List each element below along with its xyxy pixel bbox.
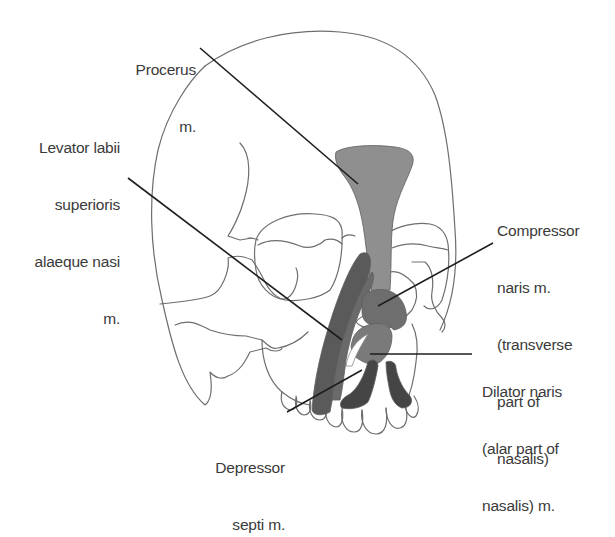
label-procerus: Procerus m. bbox=[120, 22, 196, 155]
leader-procerus bbox=[200, 48, 358, 184]
orbit-left-inner bbox=[258, 239, 342, 247]
depressor-septi-left bbox=[340, 360, 378, 409]
orbit-right-inner bbox=[392, 244, 448, 250]
label-procerus-line-1: Procerus bbox=[120, 60, 196, 79]
leader-compressor bbox=[378, 243, 493, 306]
label-levator-labii: Levator labii superioris alaeque nasi m. bbox=[10, 100, 120, 347]
label-procerus-line-2: m. bbox=[120, 117, 196, 136]
label-dilator-line-2: (alar part of bbox=[482, 439, 602, 458]
label-levator-line-1: Levator labii bbox=[10, 138, 120, 157]
leader-levator bbox=[128, 178, 342, 340]
cheek-lower bbox=[175, 322, 308, 348]
label-levator-line-4: m. bbox=[10, 309, 120, 328]
label-dilator-line-3: nasalis) m. bbox=[482, 496, 602, 515]
skull-outline bbox=[152, 31, 456, 434]
label-depressor-line-1: Depressor bbox=[195, 458, 285, 477]
label-depressor-septi: Depressor septi m. bbox=[195, 420, 285, 537]
label-compressor-line-1: Compressor bbox=[497, 221, 612, 240]
label-compressor-line-2: naris m. bbox=[497, 278, 612, 297]
label-levator-line-3: alaeque nasi bbox=[10, 252, 120, 271]
zygomatic-outline bbox=[160, 256, 298, 304]
label-dilator-naris: Dilator naris (alar part of nasalis) m. bbox=[482, 344, 602, 534]
depressor-septi-right bbox=[386, 361, 412, 408]
orbit-left-rim bbox=[248, 235, 355, 240]
cranium-top bbox=[205, 31, 456, 330]
temporal-line bbox=[228, 143, 252, 240]
label-depressor-line-2: septi m. bbox=[195, 515, 285, 534]
label-levator-line-2: superioris bbox=[10, 195, 120, 214]
muscles bbox=[312, 146, 413, 415]
procerus-muscle bbox=[335, 146, 413, 292]
compressor-naris-muscle bbox=[362, 289, 407, 330]
label-dilator-line-1: Dilator naris bbox=[482, 382, 602, 401]
